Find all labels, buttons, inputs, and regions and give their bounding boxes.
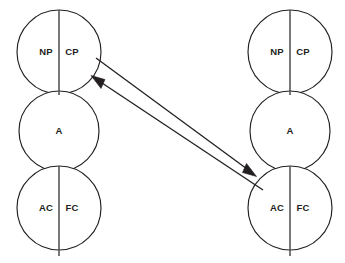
right-child-fc-label: FC bbox=[296, 202, 309, 213]
left-parent-cp-label: CP bbox=[65, 46, 79, 57]
right-adult-ego-state[interactable]: A bbox=[250, 91, 330, 171]
right-child-ac-label: AC bbox=[270, 202, 284, 213]
person-right-group: NP CP A AC FC bbox=[248, 10, 332, 256]
diagram-canvas: NP CP A AC FC NP CP bbox=[0, 0, 345, 263]
person-left-group: NP CP A AC FC bbox=[17, 10, 101, 256]
right-parent-cp-label: CP bbox=[296, 46, 310, 57]
transaction-outgoing-arrow[interactable] bbox=[96, 58, 257, 177]
right-parent-np-label: NP bbox=[270, 46, 284, 57]
left-child-ac-label: AC bbox=[39, 202, 53, 213]
transaction-incoming-arrowhead bbox=[91, 76, 105, 89]
left-child-fc-label: FC bbox=[65, 202, 78, 213]
transaction-outgoing-line[interactable] bbox=[96, 58, 253, 173]
transaction-incoming-line[interactable] bbox=[96, 79, 263, 190]
left-adult-label: A bbox=[55, 125, 62, 136]
ego-state-diagram: NP CP A AC FC NP CP bbox=[0, 0, 345, 263]
left-parent-np-label: NP bbox=[39, 46, 53, 57]
right-adult-label: A bbox=[286, 125, 293, 136]
transaction-outgoing-arrowhead bbox=[243, 164, 257, 177]
transaction-incoming-arrow[interactable] bbox=[91, 76, 263, 191]
transaction-arrows-group bbox=[91, 58, 263, 190]
left-adult-ego-state[interactable]: A bbox=[19, 91, 99, 171]
